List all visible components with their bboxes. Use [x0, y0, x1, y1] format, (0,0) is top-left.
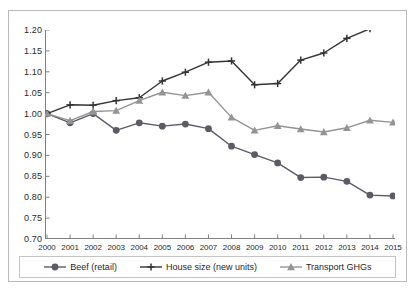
x-tick-label: 2012 — [315, 243, 332, 252]
y-tick-label: 1.05 — [24, 88, 42, 98]
chart-legend: Beef (retail)House size (new units)Trans… — [19, 256, 396, 278]
legend-label: Transport GHGs — [306, 262, 372, 272]
legend-marker-plus-icon — [139, 261, 163, 273]
y-tick-label: 0.95 — [24, 130, 42, 140]
legend-label: House size (new units) — [166, 262, 257, 272]
x-axis-tick-labels: 2000200120022003200420052006200720082009… — [45, 241, 395, 255]
x-tick-label: 2008 — [223, 243, 240, 252]
legend-entry[interactable]: Beef (retail) — [43, 261, 117, 273]
y-tick-label: 1.00 — [24, 109, 42, 119]
legend-entry[interactable]: Transport GHGs — [279, 261, 372, 273]
x-tick-label: 2009 — [246, 243, 263, 252]
chart-figure: 1.201.151.101.051.000.950.900.850.800.75… — [8, 10, 407, 282]
x-tick-label: 2002 — [84, 243, 101, 252]
y-tick-label: 1.10 — [24, 67, 42, 77]
x-tick-label: 2004 — [131, 243, 148, 252]
y-tick-label: 0.75 — [24, 213, 42, 223]
x-tick-label: 2000 — [38, 243, 55, 252]
x-tick-label: 2014 — [361, 243, 378, 252]
x-tick-label: 2001 — [61, 243, 78, 252]
legend-marker-triangle-icon — [279, 261, 303, 273]
line-chart-svg — [45, 30, 395, 239]
x-tick-label: 2006 — [177, 243, 194, 252]
series-transport-ghgs — [45, 88, 395, 135]
plot-area — [45, 30, 395, 239]
x-tick-label: 2015 — [384, 243, 401, 252]
x-tick-label: 2010 — [269, 243, 286, 252]
legend-entry[interactable]: House size (new units) — [139, 261, 257, 273]
series-beef-retail — [45, 110, 395, 199]
data-series-layer — [45, 30, 395, 199]
legend-marker-circle-icon — [43, 261, 67, 273]
x-tick-label: 2003 — [107, 243, 124, 252]
x-tick-label: 2007 — [200, 243, 217, 252]
legend-label: Beef (retail) — [70, 262, 117, 272]
x-tick-label: 2005 — [154, 243, 171, 252]
y-tick-label: 0.85 — [24, 171, 42, 181]
x-tick-label: 2013 — [338, 243, 355, 252]
y-tick-label: 1.15 — [24, 46, 42, 56]
y-tick-label: 0.90 — [24, 150, 42, 160]
y-axis-tick-labels: 1.201.151.101.051.000.950.900.850.800.75… — [9, 30, 42, 239]
x-tick-label: 2011 — [292, 243, 309, 252]
y-tick-label: 0.80 — [24, 192, 42, 202]
y-tick-label: 1.20 — [24, 25, 42, 35]
